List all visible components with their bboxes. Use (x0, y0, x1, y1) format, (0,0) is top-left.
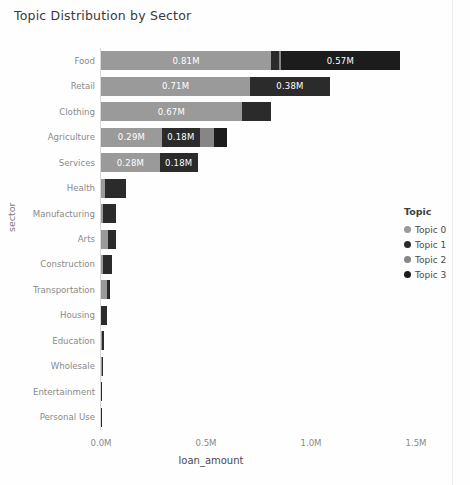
bar-segment (214, 128, 227, 147)
bar-row (101, 382, 102, 401)
legend-swatch-icon (404, 256, 411, 263)
legend-item-label: Topic 0 (415, 225, 446, 235)
bar-segment: 0.67M (101, 102, 242, 121)
legend-item-2[interactable]: Topic 2 (404, 252, 466, 267)
bar-segment (102, 331, 104, 350)
legend-swatch-icon (404, 226, 411, 233)
bar-row: 0.71M0.38M (101, 77, 330, 96)
y-axis-tick-transportation: Transportation (33, 285, 95, 295)
bar-segment: 0.38M (250, 77, 330, 96)
bar-segment (271, 51, 279, 70)
x-axis-title-text: loan_amount (179, 455, 244, 466)
legend-item-1[interactable]: Topic 1 (404, 237, 466, 252)
bar-segment: 0.81M (101, 51, 271, 70)
bar-row (101, 331, 104, 350)
legend-swatch-icon (404, 241, 411, 248)
legend-item-label: Topic 1 (415, 240, 446, 250)
legend-item-label: Topic 3 (415, 270, 446, 280)
y-axis-tick-food: Food (74, 56, 95, 66)
x-axis-tick-labels: 0.0M0.5M1.0M1.5M (0, 432, 470, 452)
y-axis-tick-services: Services (59, 158, 95, 168)
y-axis-tick-arts: Arts (78, 234, 95, 244)
bar-segment: 0.57M (281, 51, 401, 70)
bar-segment (103, 204, 116, 223)
bar-value-label: 0.38M (276, 81, 303, 91)
y-axis-tick-wholesale: Wholesale (51, 361, 95, 371)
bar-value-label: 0.29M (118, 132, 145, 142)
x-axis-title: loan_amount (0, 455, 470, 466)
bar-row (101, 280, 110, 299)
bar-segment (242, 102, 271, 121)
x-axis-tick-label: 0.0M (90, 438, 111, 448)
plot-area: 0.81M0.57M0.71M0.38M0.67M0.29M0.18M0.28M… (101, 48, 416, 430)
y-axis-tick-retail: Retail (71, 81, 95, 91)
bar-segment (103, 255, 112, 274)
legend-item-3[interactable]: Topic 3 (404, 267, 466, 282)
bar-row (101, 357, 103, 376)
bar-value-label: 0.57M (327, 56, 354, 66)
x-axis-tick-label: 1.5M (405, 438, 426, 448)
y-axis-tick-personal-use: Personal Use (40, 412, 95, 422)
y-axis-tick-education: Education (52, 336, 95, 346)
bar-segment: 0.28M (101, 153, 160, 172)
y-axis-tick-clothing: Clothing (59, 107, 95, 117)
bar-segment (101, 306, 106, 325)
legend: Topic Topic 0Topic 1Topic 2Topic 3 (404, 206, 466, 282)
chart-canvas: Topic Distribution by Sector FoodRetailC… (0, 0, 470, 485)
bar-row (101, 255, 112, 274)
bar-value-label: 0.71M (162, 81, 189, 91)
bar-segment: 0.18M (160, 153, 198, 172)
bar-row: 0.28M0.18M (101, 153, 198, 172)
bar-segment (108, 230, 115, 249)
bar-segment (102, 357, 103, 376)
legend-item-0[interactable]: Topic 0 (404, 222, 466, 237)
bar-row: 0.67M (101, 102, 271, 121)
bar-value-label: 0.67M (158, 107, 185, 117)
bar-value-label: 0.28M (117, 158, 144, 168)
legend-swatch-icon (404, 271, 411, 278)
bar-segment (105, 179, 126, 198)
bar-value-label: 0.18M (167, 132, 194, 142)
bar-row (101, 306, 107, 325)
bar-value-label: 0.18M (165, 158, 192, 168)
bar-row: 0.81M0.57M (101, 51, 400, 70)
bar-row: 0.29M0.18M (101, 128, 227, 147)
page-title: Topic Distribution by Sector (14, 8, 191, 23)
bar-segment (200, 128, 215, 147)
x-axis-tick-label: 1.0M (300, 438, 321, 448)
y-axis-tick-construction: Construction (40, 259, 95, 269)
y-axis-tick-housing: Housing (60, 310, 95, 320)
bar-segment (101, 230, 108, 249)
bar-row (101, 179, 126, 198)
bar-segment (107, 280, 110, 299)
bar-row (101, 204, 116, 223)
y-axis-tick-manufacturing: Manufacturing (33, 209, 95, 219)
y-axis-title: sector (6, 203, 17, 232)
y-axis-tick-health: Health (67, 183, 95, 193)
bar-segment: 0.71M (101, 77, 250, 96)
y-axis-tick-entertainment: Entertainment (33, 387, 95, 397)
y-axis-tick-labels: FoodRetailClothingAgricultureServicesHea… (0, 48, 95, 430)
legend-items: Topic 0Topic 1Topic 2Topic 3 (404, 222, 466, 282)
y-axis-tick-agriculture: Agriculture (48, 132, 95, 142)
bar-value-label: 0.81M (172, 56, 199, 66)
bar-segment: 0.18M (162, 128, 200, 147)
legend-item-label: Topic 2 (415, 255, 446, 265)
legend-title: Topic (404, 206, 466, 217)
bar-segment: 0.29M (101, 128, 162, 147)
x-axis-tick-label: 0.5M (195, 438, 216, 448)
bar-row (101, 230, 116, 249)
